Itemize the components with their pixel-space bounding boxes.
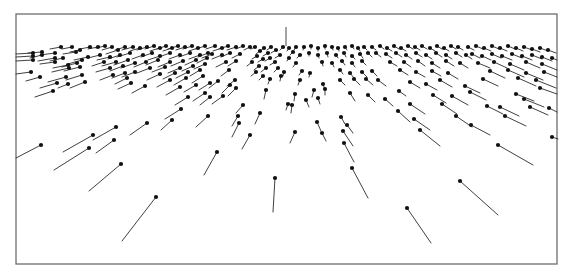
pin-head	[188, 51, 192, 55]
pin-head	[438, 78, 442, 82]
pin-stem	[16, 72, 31, 74]
pin-head	[80, 58, 84, 62]
pin-head	[366, 51, 370, 55]
pin-head	[420, 44, 424, 48]
pin-head	[269, 45, 273, 49]
pin-head	[528, 105, 532, 109]
pin-stem	[175, 97, 188, 105]
pin-head	[248, 133, 252, 137]
pin-stem	[526, 62, 540, 68]
pin-head	[378, 44, 382, 48]
pin-head	[309, 44, 313, 48]
pin-head	[215, 150, 219, 154]
pin-head	[364, 77, 368, 81]
pin-head	[522, 97, 526, 101]
pin-head	[492, 60, 496, 64]
pin-stem	[498, 145, 533, 165]
pin-head	[125, 76, 129, 80]
pin-head	[496, 143, 500, 147]
pin-head	[385, 46, 389, 50]
pin-stem	[465, 86, 480, 93]
pin-head	[184, 76, 188, 80]
pin-head	[264, 88, 268, 92]
pin-head	[293, 130, 297, 134]
pin-head	[178, 85, 182, 89]
pin-head	[510, 52, 514, 56]
pin-head	[294, 61, 298, 65]
pin-head	[208, 81, 212, 85]
pin-head	[266, 51, 270, 55]
pin-head	[325, 51, 329, 55]
pin-stem	[118, 83, 131, 89]
pin-stem	[40, 83, 57, 88]
pin-head	[304, 98, 308, 102]
pin-head	[198, 53, 202, 57]
pin-stem	[508, 70, 524, 77]
pin-head	[108, 55, 112, 59]
pin-head	[540, 62, 544, 66]
pin-head	[370, 69, 374, 73]
pin-head	[540, 55, 544, 59]
pin-stem	[35, 91, 53, 97]
pin-stem	[132, 86, 145, 93]
pin-stem	[161, 120, 172, 130]
pin-head	[352, 77, 356, 81]
pin-stem	[166, 87, 180, 95]
pin-head	[434, 51, 438, 55]
pin-head	[141, 53, 145, 57]
pin-stem	[505, 116, 526, 126]
pin-head	[320, 60, 324, 64]
pin-head	[406, 44, 410, 48]
pin-head	[194, 83, 198, 87]
pin-head	[316, 46, 320, 50]
pin-head	[440, 102, 444, 106]
pin-head	[348, 91, 352, 95]
pin-head	[474, 44, 478, 48]
pin-head	[490, 52, 494, 56]
pin-head	[53, 60, 57, 64]
pin-head	[286, 102, 290, 106]
pin-head	[186, 70, 190, 74]
pin-head	[164, 44, 168, 48]
pin-head	[279, 74, 283, 78]
pin-head	[360, 59, 364, 63]
pin-head	[74, 50, 78, 54]
pin-head	[362, 45, 366, 49]
pin-head	[108, 66, 112, 70]
pin-stem	[518, 78, 536, 86]
pin-head	[336, 46, 340, 50]
pin-head	[350, 54, 354, 58]
pin-head	[520, 54, 524, 58]
pin-head	[399, 46, 403, 50]
pin-head	[53, 56, 57, 60]
pin-head	[67, 66, 71, 70]
pin-head	[114, 60, 118, 64]
pin-head	[340, 59, 344, 63]
pin-head	[163, 65, 167, 69]
pin-head	[158, 46, 162, 50]
pin-head	[61, 56, 65, 60]
pin-head	[264, 66, 268, 70]
pin-stem	[407, 208, 431, 243]
pin-head	[384, 52, 388, 56]
pin-stem	[96, 68, 110, 72]
pin-head	[294, 45, 298, 49]
pin-head	[198, 68, 202, 72]
pin-head	[228, 83, 232, 87]
pin-head	[241, 103, 245, 107]
pin-head	[234, 45, 238, 49]
pin-head	[454, 51, 458, 55]
pin-head	[78, 48, 82, 52]
pin-head	[341, 129, 345, 133]
pin-head	[431, 93, 435, 97]
pin-head	[323, 87, 327, 91]
pin-head	[418, 128, 422, 132]
pin-head	[228, 51, 232, 55]
pin-head	[129, 81, 133, 85]
pin-stem	[540, 88, 557, 94]
pin-head	[220, 53, 224, 57]
pin-head	[143, 84, 147, 88]
pin-stem	[70, 82, 85, 88]
pin-stem	[66, 75, 82, 80]
pin-stem	[165, 109, 181, 119]
